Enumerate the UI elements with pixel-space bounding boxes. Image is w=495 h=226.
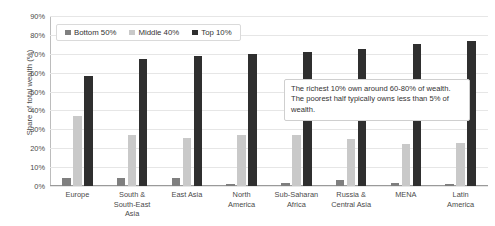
bar-group xyxy=(50,16,105,186)
legend-swatch-icon xyxy=(192,30,198,36)
y-axis-tick-label: 30% xyxy=(30,125,45,134)
bar-1[interactable] xyxy=(347,139,356,186)
bar-1[interactable] xyxy=(128,135,137,186)
y-axis-tick-label: 10% xyxy=(30,163,45,172)
y-axis-tick-label: 0% xyxy=(34,182,45,191)
wealth-share-bar-chart: Share of total wealth (%) 90%80%70%60%50… xyxy=(0,0,495,226)
bar-1[interactable] xyxy=(292,135,301,186)
annotation-callout: The richest 10% own around 60-80% of wea… xyxy=(284,79,470,121)
bar-1[interactable] xyxy=(183,138,192,186)
x-axis-tick-label: Sub-SaharanAfrica xyxy=(269,190,324,219)
x-axis-tick-label: South &South-EastAsia xyxy=(105,190,160,219)
y-axis-tick-label: 90% xyxy=(30,12,45,21)
bar-group xyxy=(214,16,269,186)
y-axis-tick-label: 80% xyxy=(30,30,45,39)
x-axis-tick-label: Europe xyxy=(50,190,105,219)
bar-0[interactable] xyxy=(445,184,454,186)
legend-swatch-icon xyxy=(129,30,135,36)
x-axis-tick-label: LatinAmerica xyxy=(433,190,488,219)
bar-0[interactable] xyxy=(281,183,290,186)
bar-0[interactable] xyxy=(62,178,71,186)
bar-2[interactable] xyxy=(139,59,148,186)
bar-2[interactable] xyxy=(194,56,203,186)
legend-label: Bottom 50% xyxy=(74,28,116,37)
bar-group xyxy=(105,16,160,186)
gridline xyxy=(50,186,488,187)
bar-0[interactable] xyxy=(117,178,126,186)
x-axis-tick-label: NorthAmerica xyxy=(214,190,269,219)
bar-2[interactable] xyxy=(248,54,257,186)
y-axis-tick-label: 20% xyxy=(30,144,45,153)
legend-swatch-icon xyxy=(65,30,71,36)
bar-group-bars xyxy=(105,16,160,186)
x-axis-tick-label: East Asia xyxy=(160,190,215,219)
y-axis-tick-label: 70% xyxy=(30,49,45,58)
chart-legend: Bottom 50%Middle 40%Top 10% xyxy=(56,24,241,41)
x-axis-tick-label: MENA xyxy=(379,190,434,219)
y-axis-tick-label: 40% xyxy=(30,106,45,115)
x-axis-labels: EuropeSouth &South-EastAsiaEast AsiaNort… xyxy=(50,190,488,219)
bar-0[interactable] xyxy=(172,178,181,187)
legend-item[interactable]: Top 10% xyxy=(192,28,231,37)
bar-1[interactable] xyxy=(456,143,465,186)
bar-0[interactable] xyxy=(391,183,400,186)
bar-1[interactable] xyxy=(73,116,82,186)
legend-label: Middle 40% xyxy=(138,28,179,37)
y-axis-tick-label: 50% xyxy=(30,87,45,96)
y-axis-tick-label: 60% xyxy=(30,68,45,77)
legend-item[interactable]: Bottom 50% xyxy=(65,28,116,37)
bar-group-bars xyxy=(214,16,269,186)
bar-0[interactable] xyxy=(226,184,235,186)
bar-group xyxy=(160,16,215,186)
bar-0[interactable] xyxy=(336,180,345,186)
bar-group-bars xyxy=(50,16,105,186)
bar-1[interactable] xyxy=(402,144,411,187)
legend-label: Top 10% xyxy=(201,28,231,37)
bar-group-bars xyxy=(160,16,215,186)
legend-item[interactable]: Middle 40% xyxy=(129,28,179,37)
bar-1[interactable] xyxy=(237,135,246,186)
x-axis-tick-label: Russia &Central Asia xyxy=(324,190,379,219)
bar-2[interactable] xyxy=(84,76,93,186)
